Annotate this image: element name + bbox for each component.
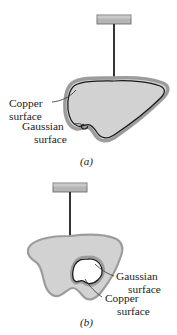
panel-b-caption: (b)	[80, 316, 93, 329]
copper-surface-outline	[65, 78, 168, 141]
panel-a: Copper surface Gaussian surface (a)	[9, 15, 168, 168]
panel-b: Gaussian surface Copper surface (b)	[28, 183, 161, 329]
copper-surface-label: Copper surface	[9, 97, 43, 122]
support-plate-highlight	[98, 16, 131, 19]
copper-surface-label-line-1: Copper	[9, 97, 43, 109]
gaussian-surface-label-line-1: Gaussian	[116, 270, 158, 282]
gaussian-surface-label: Gaussian surface	[22, 120, 67, 145]
gaussian-surface-label-line-1: Gaussian	[22, 120, 64, 132]
figure-canvas: Copper surface Gaussian surface (a)	[0, 0, 177, 335]
gaussian-surface-label-line-2: surface	[34, 133, 67, 145]
panel-a-caption: (a)	[80, 155, 93, 168]
support-plate-highlight	[54, 184, 87, 187]
copper-surface-label-line-1: Copper	[105, 292, 139, 304]
copper-surface-label: Copper surface	[105, 292, 150, 317]
copper-surface-label-line-2: surface	[117, 305, 150, 317]
gaussian-surface-figure: Copper surface Gaussian surface (a)	[0, 0, 177, 335]
